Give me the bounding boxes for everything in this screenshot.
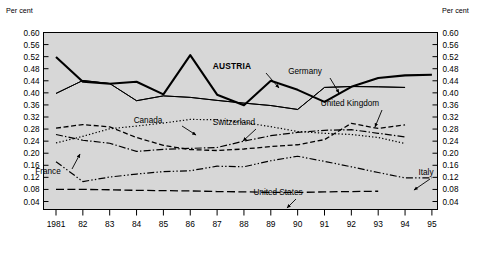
y-tick-label-right: 0.56	[443, 41, 459, 50]
x-tick-label: 83	[105, 219, 115, 229]
y-tick-label-left: 0.36	[24, 101, 40, 110]
y-tick-label-right: 0.20	[443, 149, 459, 158]
y-tick-label-left: 0.44	[24, 77, 40, 86]
annotation-label-germany: Germany	[288, 67, 323, 76]
annotation-label-canada: Canada	[134, 116, 163, 125]
y-tick-label-right: 0.24	[443, 137, 459, 146]
y-tick-label-left: 0.52	[24, 53, 40, 62]
y-tick-label-left: 0.08	[24, 185, 40, 194]
line-chart: 0.600.600.560.560.520.520.480.480.440.44…	[0, 0, 480, 255]
y-axis-label-right: Per cent	[442, 6, 469, 15]
x-tick-label: 1981	[47, 219, 66, 229]
y-tick-label-right: 0.40	[443, 89, 459, 98]
x-tick-label: 94	[400, 219, 410, 229]
annotation-label-italy: Italy	[418, 168, 434, 177]
y-tick-label-left: 0.48	[24, 65, 40, 74]
y-tick-label-right: 0.44	[443, 77, 459, 86]
x-tick-label: 86	[186, 219, 196, 229]
x-tick-label: 85	[159, 219, 169, 229]
y-tick-label-left: 0.60	[24, 29, 40, 38]
y-tick-label-right: 0.36	[443, 101, 459, 110]
x-tick-label: 95	[427, 219, 437, 229]
y-tick-label-left: 0.32	[24, 113, 40, 122]
annotation-label-united-kingdom: United Kingdom	[321, 99, 379, 108]
chart-container: 0.600.600.560.560.520.520.480.480.440.44…	[0, 0, 480, 255]
x-tick-label: 84	[132, 219, 142, 229]
y-tick-label-right: 0.04	[443, 198, 459, 207]
x-tick-label: 91	[320, 219, 330, 229]
y-tick-label-right: 0.52	[443, 53, 459, 62]
x-tick-label: 93	[374, 219, 384, 229]
y-tick-label-left: 0.40	[24, 89, 40, 98]
annotation-label-france: France	[35, 167, 61, 176]
y-tick-label-right: 0.60	[443, 29, 459, 38]
y-tick-label-right: 0.16	[443, 161, 459, 170]
x-tick-label: 88	[239, 219, 249, 229]
annotation-label-united-states: United States	[253, 188, 302, 197]
x-tick-label: 87	[212, 219, 222, 229]
x-tick-label: 82	[78, 219, 88, 229]
x-tick-label: 89	[266, 219, 276, 229]
y-tick-label-left: 0.28	[24, 125, 40, 134]
y-tick-label-left: 0.56	[24, 41, 40, 50]
y-tick-label-right: 0.28	[443, 125, 459, 134]
y-tick-label-right: 0.08	[443, 185, 459, 194]
y-axis-label-left: Per cent	[6, 6, 33, 15]
x-tick-label: 90	[293, 219, 303, 229]
annotation-label-austria: AUSTRIA	[213, 61, 252, 71]
annotation-label-switzerland: Switzerland	[213, 118, 256, 127]
y-tick-label-left: 0.20	[24, 149, 40, 158]
y-tick-label-left: 0.24	[24, 137, 40, 146]
y-tick-label-right: 0.48	[443, 65, 459, 74]
y-tick-label-right: 0.12	[443, 173, 459, 182]
y-tick-label-left: 0.04	[24, 198, 40, 207]
x-tick-label: 92	[347, 219, 357, 229]
y-tick-label-right: 0.32	[443, 113, 459, 122]
